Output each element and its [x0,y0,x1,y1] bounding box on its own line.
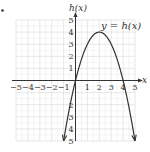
y-tick-label: 5 [68,137,73,146]
y-tick-label: 3 [68,113,73,122]
y-tick-label: 5 [68,16,73,25]
y-tick-label: 3 [68,40,73,49]
x-tick-label: −4 [22,83,34,92]
bullet-dot [1,9,4,12]
y-axis-label: h(x) [69,3,87,13]
curve-label: y = h(x) [100,20,141,31]
y-tick-label: 1 [68,64,73,73]
x-tick-label: −3 [34,83,46,92]
parabola-chart: −5−4−3−2−112345123452345 h(x) x y = h(x) [0,0,150,152]
x-tick-label: −2 [46,83,58,92]
y-tick-label: 4 [68,28,73,37]
x-tick-label: 1 [85,83,90,92]
x-tick-label: 5 [132,83,137,92]
x-axis-label: x [142,75,147,85]
x-tick-label: 2 [97,83,102,92]
x-tick-label: 3 [109,83,114,92]
x-tick-label: −5 [10,83,22,92]
y-tick-label: 4 [68,125,73,134]
y-tick-label: 2 [68,52,73,61]
x-tick-label: −1 [58,83,70,92]
